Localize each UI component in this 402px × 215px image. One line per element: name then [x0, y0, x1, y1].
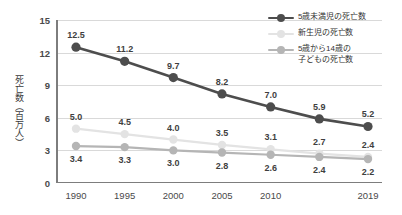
- data-label: 3.3: [118, 155, 131, 165]
- legend-item[interactable]: 5歳から14歳の子どもの死亡数: [268, 44, 400, 65]
- data-label: 5.9: [313, 102, 326, 112]
- y-tick-label: 0: [45, 178, 50, 189]
- legend-item[interactable]: 5歳未満児の死亡数: [268, 12, 400, 23]
- data-point-marker: [315, 153, 323, 161]
- x-tick-label: 1995: [114, 190, 135, 201]
- data-label: 7.0: [264, 90, 277, 100]
- data-point-marker: [71, 43, 80, 52]
- y-tick-label: 15: [39, 15, 50, 26]
- data-label: 2.4: [313, 165, 326, 175]
- data-point-marker: [169, 146, 177, 154]
- data-point-marker: [218, 141, 226, 149]
- chart-figure: 死亡数（百万人） 03691215 1990199520002005201020…: [0, 0, 402, 215]
- data-point-marker: [120, 143, 128, 151]
- data-label: 12.5: [67, 30, 85, 40]
- data-label: 3.1: [264, 132, 277, 142]
- data-point-marker: [72, 142, 80, 150]
- data-label: 2.8: [216, 161, 229, 171]
- chart-legend: 5歳未満児の死亡数新生児の死亡数5歳から14歳の子どもの死亡数: [268, 12, 400, 70]
- data-label: 4.5: [118, 117, 131, 127]
- x-tick-label: 2005: [211, 190, 232, 201]
- data-label: 11.2: [116, 44, 133, 54]
- data-point-marker: [315, 114, 324, 123]
- data-label: 2.4: [362, 140, 375, 150]
- data-label: 8.2: [216, 77, 229, 87]
- y-tick-label: 12: [39, 47, 50, 58]
- data-label: 9.7: [167, 61, 180, 71]
- data-label: 2.6: [264, 163, 277, 173]
- data-point-marker: [169, 73, 178, 82]
- data-point-marker: [72, 124, 80, 132]
- data-label: 3.0: [167, 158, 180, 168]
- data-label: 3.5: [216, 128, 229, 138]
- y-tick-label: 9: [45, 80, 50, 91]
- legend-label: 5歳から14歳の子どもの死亡数: [298, 44, 353, 65]
- data-label: 3.4: [70, 154, 83, 164]
- data-label: 4.0: [167, 123, 180, 133]
- data-point-marker: [266, 102, 275, 111]
- x-tick-label: 1990: [65, 190, 86, 201]
- y-tick-label: 6: [45, 112, 50, 123]
- legend-label: 5歳未満児の死亡数: [298, 12, 366, 23]
- data-point-marker: [120, 57, 129, 66]
- legend-item[interactable]: 新生児の死亡数: [268, 28, 400, 39]
- x-tick-label: 2000: [163, 190, 184, 201]
- data-point-marker: [363, 122, 372, 131]
- y-tick-label: 3: [45, 145, 50, 156]
- x-tick-label: 2010: [260, 190, 281, 201]
- data-label: 5.2: [362, 109, 375, 119]
- legend-swatch-icon: [268, 28, 294, 39]
- data-point-marker: [120, 130, 128, 138]
- data-point-marker: [169, 135, 177, 143]
- data-point-marker: [266, 151, 274, 159]
- data-point-marker: [217, 89, 226, 98]
- data-label: 2.7: [313, 137, 326, 147]
- data-label: 5.0: [70, 112, 83, 122]
- x-tick-label: 2019: [357, 190, 378, 201]
- legend-swatch-icon: [268, 44, 294, 55]
- data-label: 2.2: [362, 167, 375, 177]
- y-axis-title: 死亡数（百万人）: [8, 52, 30, 170]
- legend-swatch-icon: [268, 12, 294, 23]
- data-point-marker: [218, 148, 226, 156]
- data-point-marker: [364, 155, 372, 163]
- legend-label: 新生児の死亡数: [298, 28, 353, 39]
